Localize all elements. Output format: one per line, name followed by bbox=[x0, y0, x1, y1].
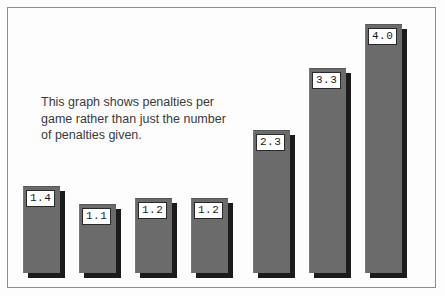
bar-value-label: 2.3 bbox=[256, 134, 285, 151]
bar-group[interactable]: 4.0 bbox=[365, 24, 402, 273]
bar-value-label: 1.1 bbox=[82, 208, 111, 225]
bar[interactable] bbox=[365, 24, 402, 273]
bar-value-label: 1.4 bbox=[26, 190, 55, 207]
chart-frame: 1.41.11.21.22.33.34.0 This graph shows p… bbox=[7, 7, 436, 288]
bar-value-label: 1.2 bbox=[194, 202, 223, 219]
chart-screenshot: 1.41.11.21.22.33.34.0 This graph shows p… bbox=[0, 0, 445, 296]
bar-group[interactable]: 1.2 bbox=[191, 198, 228, 273]
annotation-line-2: game rather than just the number bbox=[41, 111, 256, 128]
annotation-line-3: of penalties given. bbox=[41, 127, 256, 144]
bar[interactable] bbox=[253, 130, 290, 273]
chart-annotation: This graph shows penalties per game rath… bbox=[41, 94, 256, 144]
bar-group[interactable]: 1.2 bbox=[135, 198, 172, 273]
bar-group[interactable]: 2.3 bbox=[253, 130, 290, 273]
annotation-line-1: This graph shows penalties per bbox=[41, 94, 256, 111]
bar-group[interactable]: 1.1 bbox=[79, 204, 116, 273]
bar[interactable] bbox=[309, 68, 346, 273]
bar-value-label: 4.0 bbox=[368, 28, 397, 45]
plot-area: 1.41.11.21.22.33.34.0 bbox=[8, 8, 435, 287]
bar-value-label: 1.2 bbox=[138, 202, 167, 219]
bar-group[interactable]: 1.4 bbox=[23, 186, 60, 273]
bar-value-label: 3.3 bbox=[312, 72, 341, 89]
bar-group[interactable]: 3.3 bbox=[309, 68, 346, 273]
